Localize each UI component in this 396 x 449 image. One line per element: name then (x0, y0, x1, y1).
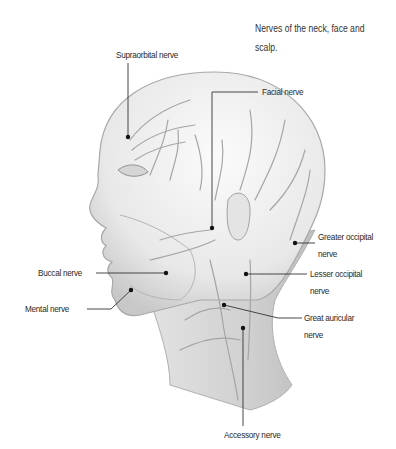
label-mental-nerve: Mental nerve (25, 300, 69, 317)
lesser-occipital-dot (244, 272, 248, 276)
supraorbital-dot (126, 135, 130, 139)
great-auricular-leader (224, 305, 302, 318)
mental-dot (129, 288, 133, 292)
label-supraorbital-nerve: Supraorbital nerve (116, 46, 178, 63)
accessory-dot (241, 326, 245, 330)
label-lesser-occipital-nerve: Lesser occipital nerve (310, 265, 362, 299)
mental-leader (87, 290, 131, 309)
label-great-auricular-line-1: Great auricular (304, 309, 354, 326)
buccal-dot (164, 271, 168, 275)
leader-lines (0, 0, 396, 449)
label-greater-occipital-nerve: Greater occipital nerve (318, 228, 373, 262)
label-greater-occipital-line-1: Greater occipital (318, 228, 373, 245)
greater-occipital-dot (293, 241, 297, 245)
label-greater-occipital-line-2: nerve (318, 245, 373, 262)
facial-dot (210, 226, 214, 230)
label-great-auricular-line-2: nerve (304, 326, 354, 343)
label-facial-nerve: Facial nerve (262, 83, 303, 100)
label-lesser-occipital-line-2: nerve (310, 282, 362, 299)
label-buccal-nerve: Buccal nerve (38, 264, 82, 281)
label-great-auricular-nerve: Great auricular nerve (304, 309, 354, 343)
label-accessory-nerve: Accessory nerve (224, 426, 281, 443)
great-auricular-dot (222, 303, 226, 307)
label-lesser-occipital-line-1: Lesser occipital (310, 265, 362, 282)
facial-leader (212, 92, 258, 228)
